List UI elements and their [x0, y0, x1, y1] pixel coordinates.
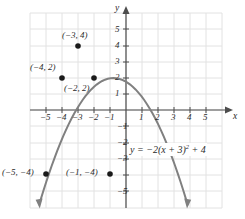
point-label-left-mid: (−4, 2)	[30, 63, 56, 72]
x-tick-label-1: 1	[139, 113, 144, 122]
point-label-vertex: (−3, 4)	[62, 31, 88, 40]
point-marker	[59, 75, 65, 81]
x-tick-label-neg3: −3	[72, 113, 83, 122]
point-label-left-low: (−5, −4)	[2, 168, 34, 177]
y-axis-label: y	[115, 4, 119, 14]
y-tick-label-4: 4	[115, 41, 120, 50]
x-tick-label-neg2: −2	[88, 113, 99, 122]
x-tick-label-neg1: −1	[104, 113, 115, 122]
y-tick-label-neg2: −2	[117, 138, 128, 147]
y-tick-label-2: 2	[115, 73, 120, 82]
point-label-right-mid: (−2, 2)	[64, 84, 90, 93]
x-tick-label-4: 4	[187, 113, 192, 122]
x-tick-label-2: 2	[155, 113, 160, 122]
equation-constant: + 4	[192, 144, 206, 155]
equation-label: y = −2(x + 3)2 + 4	[129, 143, 207, 156]
y-tick-label-neg3: −3	[117, 154, 128, 163]
equation-lhs: y	[130, 144, 134, 155]
equation-exponent: 2	[186, 143, 189, 150]
x-axis-label: x	[233, 112, 237, 122]
y-tick-label-neg5: −5	[117, 187, 128, 196]
y-tick-label-5: 5	[115, 25, 120, 34]
y-tick-label-1: 1	[115, 89, 120, 98]
y-tick-label-3: 3	[115, 57, 120, 66]
equation-coefficient: −2(x + 3)	[146, 144, 186, 155]
point-marker	[75, 43, 81, 49]
y-axis	[123, 6, 130, 208]
point-marker	[107, 171, 113, 177]
x-tick-label-5: 5	[203, 113, 208, 122]
point-marker	[91, 75, 97, 81]
y-tick-label-neg1: −1	[117, 122, 128, 131]
x-tick-label-neg4: −4	[56, 113, 67, 122]
equation-equals: =	[137, 144, 144, 155]
x-tick-label-neg5: −5	[40, 113, 51, 122]
parabola-figure: y x −5 −4 −3 −2 −1 1 2 3 4 5 5 4 3 2 1 −…	[0, 0, 245, 219]
point-marker	[43, 171, 49, 177]
point-label-right-low: (−1, −4)	[66, 168, 98, 177]
x-tick-label-3: 3	[171, 113, 176, 122]
